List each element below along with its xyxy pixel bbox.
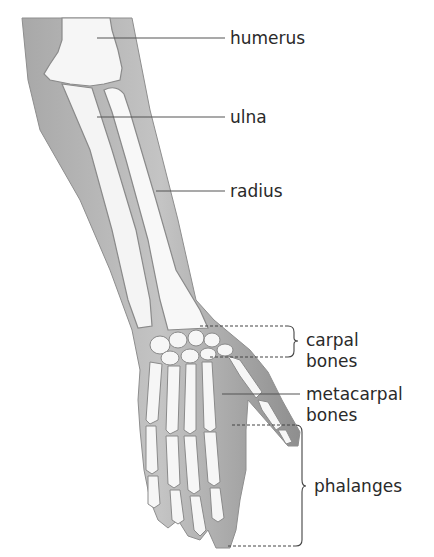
carpal-label-line1: carpal xyxy=(306,330,359,350)
metacarpal-label-line1: metacarpal xyxy=(306,384,403,404)
metacarpal-label-line2: bones xyxy=(306,405,357,425)
arm-skeleton-illustration xyxy=(0,0,434,557)
humerus-label: humerus xyxy=(230,28,305,48)
radius-label: radius xyxy=(230,181,283,201)
carpal-label-line2: bones xyxy=(306,351,357,371)
ulna-label: ulna xyxy=(230,107,267,127)
phalanges-label: phalanges xyxy=(314,476,402,496)
